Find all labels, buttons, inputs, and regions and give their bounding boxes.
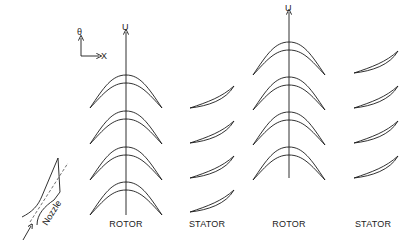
flow-inlet-arrow [23, 226, 31, 240]
stator-2-blade-1 [354, 51, 398, 73]
stator-1-blade-2 [190, 121, 234, 143]
stator-1-blade-1 [190, 86, 234, 108]
stator-1 [190, 86, 234, 212]
stator-1-blade-3 [190, 156, 234, 178]
rotor-2-u-label: U [285, 3, 292, 13]
nozzle: Nozzle [22, 158, 68, 240]
stator-1-blade-4 [190, 190, 234, 212]
stator-2 [354, 51, 398, 178]
turbine-cascade-diagram: θ X Nozzle U U [0, 0, 414, 248]
nozzle-label: Nozzle [40, 198, 63, 227]
stator-2-blade-2 [354, 86, 398, 108]
rotor-1-u-label: U [122, 22, 129, 32]
theta-label: θ [77, 27, 82, 37]
stage-label-stator-1: STATOR [189, 219, 225, 229]
stage-label-rotor-1: ROTOR [109, 219, 142, 229]
coordinate-axes: θ X [77, 27, 107, 61]
stage-label-rotor-2: ROTOR [272, 219, 305, 229]
x-label: X [101, 51, 107, 61]
stator-2-blade-4 [354, 156, 398, 178]
stator-2-blade-3 [354, 121, 398, 143]
rotor-2: U [253, 3, 325, 180]
stage-label-stator-2: STATOR [355, 219, 391, 229]
